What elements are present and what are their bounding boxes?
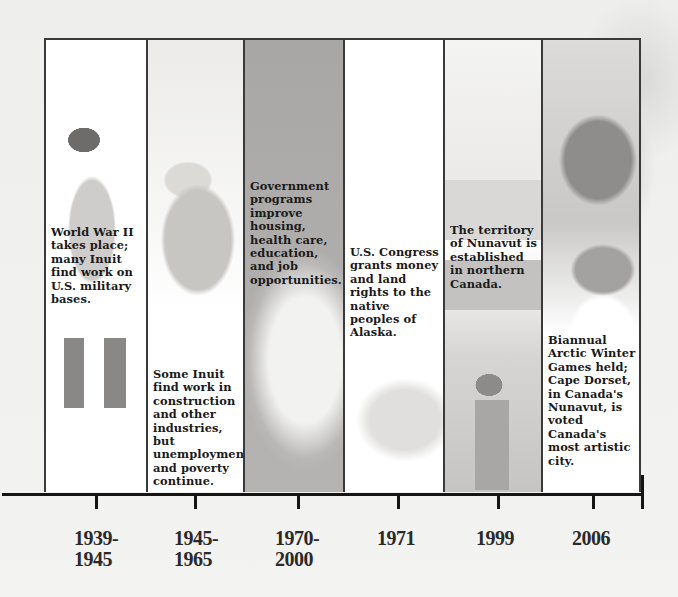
- event-description: U.S. Congress grants money and land righ…: [350, 246, 441, 340]
- event-description: World War II takes place; many Inuit fin…: [51, 226, 144, 306]
- timeline-tick: [297, 494, 300, 509]
- event-description: Some Inuit find work in construction and…: [153, 368, 241, 489]
- year-label: 1971: [377, 528, 447, 549]
- timeline-tick: [194, 494, 197, 509]
- year-label: 1939- 1945: [74, 528, 144, 570]
- year-label: 1945- 1965: [174, 528, 244, 570]
- timeline-tick: [592, 494, 595, 509]
- event-panel-1939-1945: World War II takes place; many Inuit fin…: [44, 38, 148, 492]
- year-label: 1970- 2000: [275, 528, 345, 570]
- event-panel-1999: The territory of Nunavut is established …: [443, 38, 543, 492]
- event-panel-1970-2000: Government programs improve housing, hea…: [243, 38, 345, 492]
- event-description: Government programs improve housing, hea…: [250, 180, 341, 287]
- timeline-tick: [397, 494, 400, 509]
- timeline-tick: [497, 494, 500, 509]
- timeline-panels: World War II takes place; many Inuit fin…: [44, 38, 640, 494]
- year-label: 1999: [476, 528, 546, 549]
- timeline-axis: [2, 493, 644, 496]
- timeline-end-marker: [641, 475, 644, 509]
- timeline-tick: [95, 494, 98, 509]
- event-panel-2006: Biannual Arctic Winter Games held; Cape …: [541, 38, 641, 492]
- event-panel-1945-1965: Some Inuit find work in construction and…: [146, 38, 245, 492]
- year-label: 2006: [572, 528, 642, 549]
- event-panel-1971: U.S. Congress grants money and land righ…: [343, 38, 445, 492]
- event-description: Biannual Arctic Winter Games held; Cape …: [548, 334, 637, 468]
- event-description: The territory of Nunavut is established …: [450, 224, 539, 291]
